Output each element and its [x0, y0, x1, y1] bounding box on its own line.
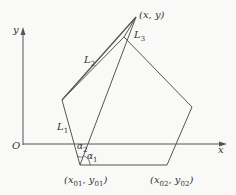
- angle-alpha1-label: α1: [87, 152, 98, 164]
- origin-label: O: [12, 141, 20, 151]
- y-axis-label: y: [13, 25, 19, 35]
- angle-alpha2-label: α2: [77, 142, 88, 154]
- link-L1-label: L1: [57, 122, 68, 135]
- link-L2-label: L2: [84, 55, 95, 68]
- apex-point-label: (x, y): [139, 10, 164, 20]
- base-point-2-label: (x02, y02): [150, 175, 193, 188]
- x-axis-label: x: [218, 145, 224, 155]
- y-axis-arrow-icon: [21, 27, 26, 35]
- diagram-canvas: y x O (x, y) L1 L2 L3 α2 α1 (x01, y01) (…: [0, 0, 236, 195]
- link-L2: [62, 17, 136, 100]
- link-base-to-apex: [80, 17, 136, 165]
- base-point-1-label: (x01, y01): [64, 175, 107, 188]
- link-L3-label: L3: [134, 30, 145, 43]
- diagram-lines: [0, 0, 236, 195]
